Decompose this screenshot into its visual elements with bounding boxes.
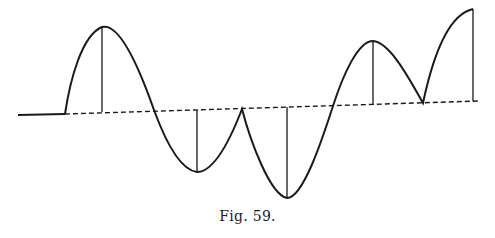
dashed-axis	[65, 101, 480, 114]
solid-baseline	[18, 114, 65, 115]
wave-diagram	[0, 0, 495, 238]
figure-caption: Fig. 59.	[0, 208, 495, 224]
